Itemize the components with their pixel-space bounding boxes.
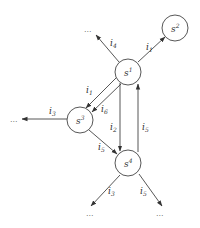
- state-diagram: s1 s2 s3 s4 i1 i4 i1 i6 i2 i5 i3 i5 i3 i…: [0, 0, 200, 228]
- node-s1: s1: [115, 59, 141, 85]
- label-i3-s4: i3: [108, 186, 115, 197]
- label-i5-s4-s1: i5: [142, 122, 149, 133]
- label-i1-s1-s2: i1: [146, 42, 153, 53]
- label-i5-s3-s4: i5: [98, 142, 105, 153]
- label-i5-s4: i5: [140, 186, 147, 197]
- ellipsis-bottom-right: ...: [156, 209, 164, 218]
- ellipsis-top: ...: [84, 25, 92, 34]
- ellipsis-bottom-left: ...: [86, 209, 94, 218]
- node-s3: s3: [67, 107, 93, 133]
- label-i6: i6: [101, 104, 108, 115]
- label-i2: i2: [110, 122, 117, 133]
- label-i3-s3: i3: [49, 106, 56, 117]
- label-i4: i4: [110, 38, 117, 49]
- label-i1-s1-s3: i1: [86, 85, 93, 96]
- ellipsis-left: ...: [10, 115, 18, 124]
- edge-s4-out-i3: [91, 175, 120, 206]
- node-s4: s4: [115, 150, 141, 176]
- node-s2: s2: [162, 15, 188, 41]
